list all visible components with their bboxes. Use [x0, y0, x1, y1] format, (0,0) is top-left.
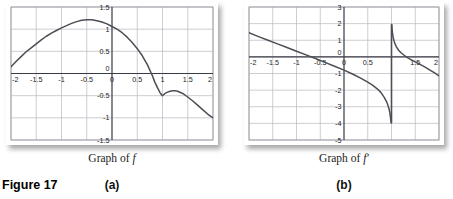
y-tick-label: -1: [103, 113, 109, 122]
y-tick-label: -0.5: [97, 91, 109, 100]
x-tick-label: -1: [58, 75, 64, 84]
y-tick-label: 1: [106, 25, 110, 34]
caption-a-prefix: Graph of: [88, 152, 132, 164]
caption-b-symbol: f′: [363, 152, 369, 164]
x-tick-label: 0: [342, 58, 346, 67]
y-tick-label: 1: [338, 36, 342, 45]
y-tick-label: 0: [106, 64, 110, 73]
chart-plot-a: -2-1.5-1-0.500.511.521.510.50-0.5-1-1.5: [6, 2, 218, 145]
x-tick-label: 0: [110, 75, 114, 84]
y-tick-label: 1.5: [100, 3, 110, 12]
x-tick-label: 0.5: [132, 75, 142, 84]
y-tick-label: -3: [335, 102, 341, 111]
graph-of-f-prime-svg: -2-1.5-1-0.500.51.523210-1-2-3-4-5: [244, 2, 444, 145]
chart-panel-b: -2-1.5-1-0.500.51.523210-1-2-3-4-5: [244, 2, 444, 145]
y-tick-label: 3: [338, 3, 342, 12]
x-tick-label: -2: [250, 58, 256, 67]
x-tick-label: -1.5: [267, 58, 279, 67]
y-tick-label: -1.5: [97, 136, 109, 145]
x-tick-label: -1: [293, 58, 299, 67]
graph-of-f-svg: -2-1.5-1-0.500.511.521.510.50-0.5-1-1.5: [6, 2, 218, 145]
y-tick-label: 2: [338, 19, 342, 28]
caption-graph-of-f: Graph of f: [6, 152, 218, 164]
x-tick-label: -1.5: [30, 75, 42, 84]
x-tick-label: 2: [434, 58, 438, 67]
figure-container: -2-1.5-1-0.500.511.521.510.50-0.5-1-1.5 …: [0, 0, 453, 199]
y-tick-label: 0: [338, 48, 342, 57]
y-tick-label: -1: [335, 69, 341, 78]
x-tick-label: -0.5: [81, 75, 93, 84]
caption-b-prefix: Graph of: [319, 152, 363, 164]
sublabel-b: (b): [244, 178, 444, 192]
caption-a-symbol: f: [132, 152, 135, 164]
chart-panel-a: -2-1.5-1-0.500.511.521.510.50-0.5-1-1.5: [6, 2, 218, 145]
y-tick-label: -5: [335, 136, 341, 145]
y-tick-label: -4: [335, 119, 341, 128]
chart-plot-b: -2-1.5-1-0.500.51.523210-1-2-3-4-5: [244, 2, 444, 145]
y-tick-label: 0.5: [100, 47, 110, 56]
y-tick-label: -2: [335, 86, 341, 95]
caption-graph-of-f-prime: Graph of f′: [244, 152, 444, 164]
x-tick-label: -2: [12, 75, 18, 84]
x-tick-label: 1: [161, 75, 165, 84]
figure-number-label: Figure 17: [2, 178, 58, 192]
x-tick-label: 0.5: [363, 58, 373, 67]
x-tick-label: 2: [208, 75, 212, 84]
x-tick-label: 1.5: [183, 75, 193, 84]
